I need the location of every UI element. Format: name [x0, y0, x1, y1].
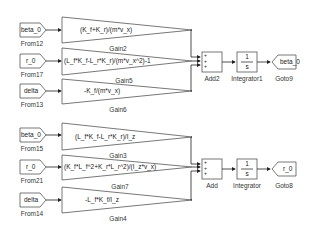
integrator-block-name: Integrator [233, 182, 261, 189]
gain-name: Gain3 [109, 152, 126, 159]
add-signs: + + + [204, 160, 207, 177]
gain-expression[interactable]: -L_f*K_f/I_z [85, 196, 119, 203]
gain-name: Gain6 [109, 106, 126, 113]
integrator-denominator: s [245, 63, 248, 70]
from-block-tag[interactable]: r_0 [26, 163, 35, 170]
gain-name: Gain2 [109, 45, 126, 52]
gain-expression[interactable]: -K_f/(m*v_x) [84, 87, 120, 94]
integrator-numerator: 1 [245, 53, 249, 60]
add-block-name: Add [206, 182, 218, 189]
gain-expression[interactable]: (L_f*K_f-L_r*K_r)/I_z [75, 133, 135, 140]
from-block-name: From15 [21, 145, 43, 152]
from-block-tag[interactable]: delta [24, 87, 38, 94]
diagram-canvas [0, 0, 313, 236]
integrator-denominator: s [245, 170, 248, 177]
gain-name: Gain7 [111, 183, 128, 190]
goto-block-name: Goto9 [275, 75, 293, 82]
from-block-name: From12 [21, 40, 43, 47]
goto-block-tag[interactable]: beta_0 [280, 58, 300, 65]
gain-expression[interactable]: (L_f*K_f-L_r*K_r)/(m*v_x^2)-1 [64, 57, 151, 64]
from-block-name: From21 [21, 177, 43, 184]
gain-expression[interactable]: (K_f*L_f^2+K_r*L_r^2)/(I_z*v_x) [64, 163, 156, 170]
from-block-name: From14 [21, 210, 43, 217]
goto-block-name: Goto8 [275, 182, 293, 189]
goto-block-tag[interactable]: r_0 [283, 165, 292, 172]
from-block-tag[interactable]: delta [24, 196, 38, 203]
from-block-tag[interactable]: beta_0 [21, 131, 41, 138]
from-block-tag[interactable]: beta_0 [21, 26, 41, 33]
from-block-name: From17 [21, 71, 43, 78]
from-block-name: From13 [21, 101, 43, 108]
gain-name: Gain4 [109, 215, 126, 222]
gain-name: Gain5 [115, 77, 132, 84]
add-block-name: Add2 [204, 75, 219, 82]
add-signs: + + + [204, 53, 207, 70]
gain-expression[interactable]: (K_f+K_r)/(m*v_x) [80, 26, 132, 33]
from-block-tag[interactable]: r_0 [26, 57, 35, 64]
integrator-numerator: 1 [245, 160, 249, 167]
integrator-block-name: Integrator1 [231, 75, 262, 82]
